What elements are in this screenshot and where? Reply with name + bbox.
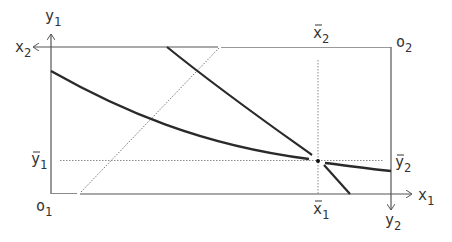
svg-text:x1: x1	[313, 200, 329, 222]
indifference-curve-agent-1-right	[325, 163, 391, 171]
svg-text:y2: y2	[395, 153, 411, 175]
indifference-curve-agent-1	[51, 71, 309, 159]
endowment-point	[316, 159, 320, 163]
guide-lines	[60, 48, 384, 194]
label-x2: x2	[15, 38, 31, 60]
labels: y1 x2 o1 o2 x1 y2 x2 x1 y1 y2	[15, 7, 434, 233]
origin-1-axes	[51, 34, 412, 194]
label-o1: o1	[36, 197, 52, 219]
diagonal-dotted-line	[81, 48, 219, 192]
label-x2-bar: x2	[313, 24, 329, 46]
label-y1-bar: y1	[31, 150, 47, 172]
label-y2-bar: y2	[395, 153, 411, 175]
label-x1: x1	[418, 186, 434, 208]
svg-text:y1: y1	[31, 150, 47, 172]
edgeworth-box-diagram: y1 x2 o1 o2 x1 y2 x2 x1 y1 y2	[0, 0, 452, 242]
label-o2: o2	[396, 33, 412, 55]
indifference-curve-agent-2	[167, 47, 312, 155]
origin-2-axes	[33, 47, 391, 210]
svg-text:x2: x2	[313, 24, 329, 46]
indifference-curves	[51, 47, 391, 194]
label-y1: y1	[45, 7, 61, 29]
label-x1-bar: x1	[313, 200, 329, 222]
indifference-curve-agent-2-lower	[324, 165, 350, 194]
label-y2: y2	[385, 211, 401, 233]
